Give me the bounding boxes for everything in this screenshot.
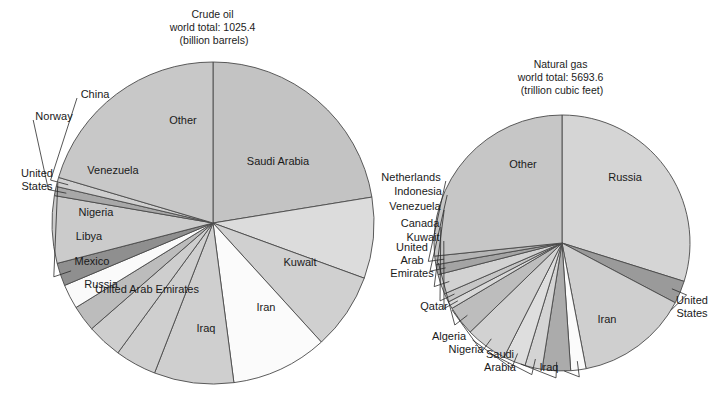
slice-label-united-arab-emirates: UnitedArabEmirates (390, 241, 434, 279)
slice-label-iran: Iran (598, 313, 617, 325)
natural-gas-wedges (434, 115, 690, 371)
slice-label-russia: Russia (608, 171, 643, 183)
slice-label-qatar: Qatar (420, 300, 448, 312)
natural-gas-title: Natural gas world total: 5693.6 (trillio… (517, 58, 607, 96)
slice-label-saudi-arabia: SaudiArabia (484, 348, 517, 373)
slice-label-netherlands: Netherlands (381, 171, 441, 183)
slice-label-saudi-arabia: Saudi Arabia (247, 155, 310, 167)
crude-oil-title: Crude oil world total: 1025.4 (billion b… (169, 8, 259, 46)
chart-crude-oil: Saudi ArabiaKuwaitIranIraqUnited Arab Em… (21, 8, 374, 384)
slice-label-united-states: UnitedStates (21, 167, 53, 192)
slice-label-libya: Libya (76, 230, 103, 242)
slice-label-canada: Canada (401, 217, 440, 229)
slice-label-russia: Russia (84, 278, 119, 290)
slice-label-iraq: Iraq (197, 322, 216, 334)
crude-oil-wedges (52, 62, 374, 384)
pie-slice-saudi-arabia[interactable] (213, 62, 372, 223)
slice-label-iraq: Iraq (540, 361, 559, 373)
pie-slice-other[interactable] (434, 115, 562, 256)
slice-label-china: China (81, 88, 111, 100)
slice-label-mexico: Mexico (75, 255, 110, 267)
slice-label-united-states: UnitedStates (676, 294, 708, 319)
slice-label-other: Other (509, 158, 537, 170)
slice-label-kuwait: Kuwait (283, 256, 316, 268)
slice-label-norway: Norway (35, 110, 73, 122)
figure-canvas: Saudi ArabiaKuwaitIranIraqUnited Arab Em… (0, 0, 721, 404)
slice-label-venezuela: Venezuela (87, 164, 139, 176)
slice-label-algeria: Algeria (432, 330, 467, 342)
chart-natural-gas: RussiaUnitedStatesIranIraqSaudiArabiaNig… (381, 58, 708, 378)
slice-label-indonesia: Indonesia (394, 185, 443, 197)
slice-label-venezuela: Venezuela (389, 200, 441, 212)
slice-label-kuwait: Kuwait (406, 231, 439, 243)
slice-label-other: Other (169, 114, 197, 126)
pie-charts-figure: Saudi ArabiaKuwaitIranIraqUnited Arab Em… (0, 0, 721, 404)
slice-label-nigeria: Nigeria (79, 206, 115, 218)
slice-label-iran: Iran (257, 301, 276, 313)
slice-label-nigeria: Nigeria (449, 343, 485, 355)
